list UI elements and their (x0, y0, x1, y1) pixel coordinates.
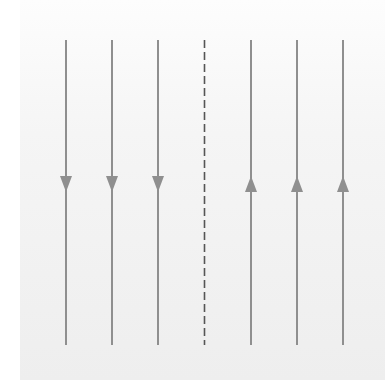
arrow-up-icon (291, 176, 303, 192)
arrow-down-icon (60, 176, 72, 192)
field-line-right-1 (245, 40, 257, 345)
arrow-down-icon (106, 176, 118, 192)
arrow-down-icon (152, 176, 164, 192)
field-line-right-2 (291, 40, 303, 345)
field-line-right-3 (337, 40, 349, 345)
field-line-left-3 (152, 40, 164, 345)
field-line-left-2 (106, 40, 118, 345)
field-line-left-1 (60, 40, 72, 345)
arrow-up-icon (337, 176, 349, 192)
arrow-up-icon (245, 176, 257, 192)
field-lines-diagram (0, 0, 385, 388)
